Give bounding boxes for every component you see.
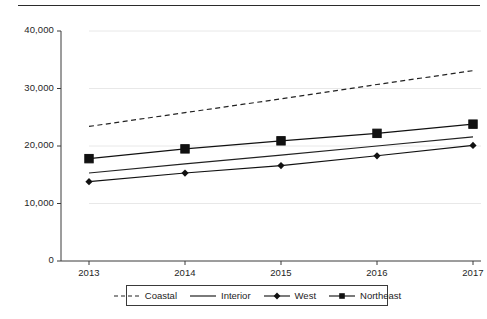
x-tick-label: 2014 — [161, 267, 209, 278]
y-tick-label: 30,000 — [2, 82, 54, 93]
marker-diamond-west — [373, 152, 380, 159]
marker-diamond-west — [277, 162, 284, 169]
y-tick-label: 40,000 — [2, 24, 54, 35]
dashed-line-sample-icon — [113, 290, 141, 302]
y-tick-label: 20,000 — [2, 139, 54, 150]
y-tick-label: 0 — [2, 254, 54, 265]
legend-label-northeast: Northeast — [360, 290, 401, 301]
marker-square-northeast — [373, 129, 381, 137]
marker-square-northeast — [469, 120, 477, 128]
marker-diamond-west — [181, 169, 188, 176]
x-tick-label: 2017 — [449, 267, 487, 278]
x-tick-label: 2015 — [257, 267, 305, 278]
legend-item-northeast[interactable]: Northeast — [322, 290, 407, 302]
axis-ticks-group — [57, 31, 473, 265]
solid-line-diamond-sample-icon — [263, 290, 291, 302]
data-series-group — [85, 71, 477, 186]
chart-legend: Coastal Interior West Northeast — [126, 285, 388, 306]
y-tick-label: 10,000 — [2, 197, 54, 208]
series-line-coastal — [89, 71, 473, 127]
solid-line-sample-icon — [189, 290, 217, 302]
x-tick-label: 2013 — [65, 267, 113, 278]
legend-item-west[interactable]: West — [257, 290, 322, 302]
legend-label-west: West — [295, 290, 316, 301]
gridlines-group — [89, 31, 481, 204]
x-tick-label: 2016 — [353, 267, 401, 278]
marker-square-northeast — [85, 154, 93, 162]
chart-figure: 40,00030,00020,00010,0000 20132014201520… — [0, 0, 487, 319]
legend-item-coastal[interactable]: Coastal — [107, 290, 183, 302]
marker-square-northeast — [181, 145, 189, 153]
marker-square-northeast — [277, 137, 285, 145]
legend-label-coastal: Coastal — [145, 290, 177, 301]
marker-diamond-west — [85, 178, 92, 185]
marker-diamond-west — [469, 142, 476, 149]
legend-label-interior: Interior — [221, 290, 251, 301]
solid-line-square-sample-icon — [328, 290, 356, 302]
legend-item-interior[interactable]: Interior — [183, 290, 257, 302]
